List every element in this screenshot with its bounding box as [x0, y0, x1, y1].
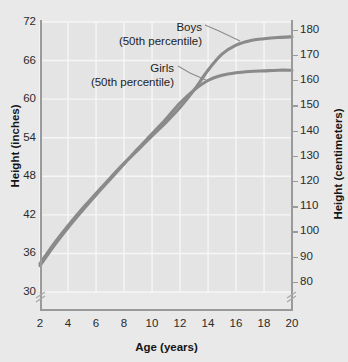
x-axis-title: Age (years) — [40, 341, 293, 353]
y-axis-right-tick-mark — [293, 181, 298, 182]
y-axis-right-tick-mark — [293, 257, 298, 258]
y-axis-right-tick-mark — [293, 282, 298, 283]
y-axis-left-title: Height (inches) — [9, 86, 21, 206]
y-axis-right-tick-mark — [293, 80, 298, 81]
y-axis-right-tick-mark — [293, 156, 298, 157]
annotation-boys-sublabel: (50th percentile) — [92, 34, 202, 48]
y-axis-right-tick-mark — [293, 231, 298, 232]
x-axis-tick-label: 20 — [280, 318, 304, 329]
annotation-girls-sublabel: (50th percentile) — [48, 75, 174, 89]
y-axis-right-tick-mark — [293, 30, 298, 31]
y-axis-right-tick-mark — [293, 131, 298, 132]
y-axis-right-tick-mark — [293, 55, 298, 56]
x-axis-tick-label: 16 — [224, 318, 248, 329]
x-axis-tick-label: 4 — [56, 318, 80, 329]
growth-chart-figure: 7266605448423630 18017016015014013012011… — [0, 0, 348, 362]
annotation-boys-label: Boys — [92, 20, 202, 34]
y-axis-right-tick-mark — [293, 206, 298, 207]
y-axis-right-title: Height (centimeters) — [332, 94, 344, 234]
y-axis-right-tick-mark — [293, 105, 298, 106]
x-axis-tick-label: 2 — [28, 318, 52, 329]
x-axis-tick-label: 10 — [140, 318, 164, 329]
annotation-girls-label: Girls — [48, 61, 174, 75]
x-axis-tick-label: 18 — [252, 318, 276, 329]
annotation-boys: Boys (50th percentile) — [92, 20, 202, 48]
x-axis-tick-label: 8 — [112, 318, 136, 329]
annotation-girls: Girls (50th percentile) — [48, 61, 174, 89]
x-axis-tick-label: 12 — [168, 318, 192, 329]
x-axis-tick-label: 6 — [84, 318, 108, 329]
x-axis-tick-label: 14 — [196, 318, 220, 329]
